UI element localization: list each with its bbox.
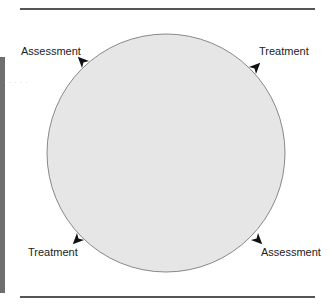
label-top-right: Treatment — [259, 45, 309, 57]
label-top-left: Assessment — [21, 45, 81, 57]
cycle-circle — [47, 34, 285, 272]
label-bottom-right: Assessment — [261, 246, 321, 258]
label-bottom-left: Treatment — [28, 246, 78, 258]
